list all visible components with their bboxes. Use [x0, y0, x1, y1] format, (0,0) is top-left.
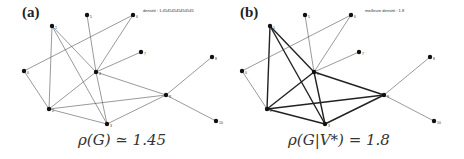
edge-3-9 [325, 95, 384, 124]
edge-4-2 [49, 72, 96, 109]
edge-9-8 [166, 57, 212, 95]
node-0 [22, 69, 26, 73]
node-label-9: 9 [387, 95, 389, 99]
node-label-2: 2 [270, 109, 272, 113]
node-5 [303, 13, 307, 17]
node-label-7: 7 [362, 52, 364, 56]
node-0 [240, 69, 244, 73]
node-label-3: 3 [328, 124, 330, 128]
node-label-5: 5 [308, 15, 310, 19]
node-8 [210, 55, 214, 59]
edge-4-9 [96, 72, 166, 95]
node-label-4: 4 [317, 72, 319, 76]
edge-4-9 [314, 72, 384, 95]
panel-b-density-annotation: meilleure densité : 1.8 [365, 8, 404, 13]
node-1 [50, 24, 54, 28]
edge-4-3 [314, 72, 325, 124]
edge-1-2 [49, 26, 52, 109]
node-3 [105, 122, 109, 126]
edge-2-3 [267, 109, 325, 124]
node-label-2: 2 [52, 109, 54, 113]
panel-a-letter: (a) [22, 4, 40, 21]
node-label-6: 6 [354, 15, 356, 19]
node-2 [265, 107, 269, 111]
node-3 [323, 122, 327, 126]
node-label-0: 0 [245, 71, 247, 75]
node-label-8: 8 [215, 57, 217, 61]
panel-b-caption: ρ(G|V*) = 1.8 [288, 131, 390, 149]
panel-b: 012345678910 (b) meilleure densité : 1.8… [232, 0, 464, 159]
node-label-1: 1 [55, 26, 57, 30]
node-label-8: 8 [433, 57, 435, 61]
node-5 [85, 13, 89, 17]
node-label-9: 9 [169, 95, 171, 99]
edge-9-10 [384, 95, 434, 121]
edge-3-9 [107, 95, 166, 124]
edge-2-9 [49, 95, 166, 109]
node-10 [214, 119, 218, 123]
node-1 [268, 24, 272, 28]
node-label-7: 7 [144, 52, 146, 56]
panel-b-letter: (b) [240, 4, 258, 21]
panel-a-density-annotation: densité : 1.45454545454545 [143, 8, 194, 13]
node-4 [94, 70, 98, 74]
node-label-5: 5 [90, 15, 92, 19]
panel-a-caption: ρ(G) ≃ 1.45 [78, 131, 166, 149]
node-label-6: 6 [136, 15, 138, 19]
edge-9-8 [384, 57, 430, 95]
node-9 [382, 93, 386, 97]
node-label-0: 0 [27, 71, 29, 75]
node-6 [349, 13, 353, 17]
edge-2-9 [267, 95, 384, 109]
node-label-1: 1 [273, 26, 275, 30]
edge-2-3 [49, 109, 107, 124]
node-2 [47, 107, 51, 111]
edge-1-2 [267, 26, 270, 109]
edge-9-10 [166, 95, 216, 121]
node-label-3: 3 [110, 124, 112, 128]
node-label-10: 10 [437, 121, 441, 125]
node-label-10: 10 [219, 121, 223, 125]
node-6 [131, 13, 135, 17]
node-9 [164, 93, 168, 97]
edge-5-4 [87, 15, 96, 72]
node-label-4: 4 [99, 72, 101, 76]
node-4 [312, 70, 316, 74]
node-7 [357, 50, 361, 54]
edge-0-2 [24, 71, 49, 109]
panel-a: 012345678910 (a) densité : 1.45454545454… [0, 0, 232, 159]
edge-0-2 [242, 71, 267, 109]
node-8 [428, 55, 432, 59]
node-7 [139, 50, 143, 54]
node-10 [432, 119, 436, 123]
edge-4-3 [96, 72, 107, 124]
